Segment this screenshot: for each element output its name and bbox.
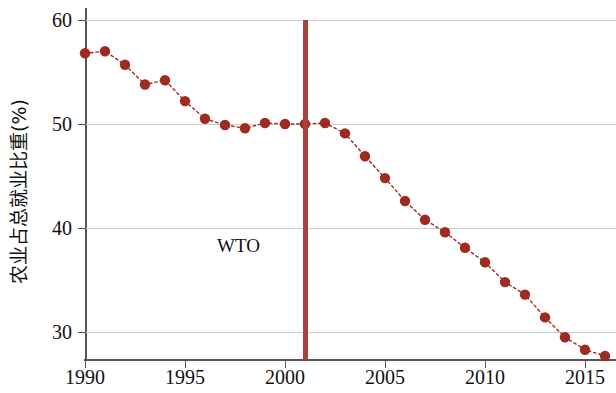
data-point (320, 118, 330, 128)
data-point (400, 196, 410, 206)
chart-figure: 农业占总就业比重(%) 30405060 1990199520002005201… (0, 0, 616, 393)
x-tick-label: 1995 (145, 367, 225, 387)
y-axis-title: 农业占总就业比重(%) (4, 57, 31, 327)
data-series-layer (0, 0, 616, 393)
gridline (85, 228, 616, 229)
series-line (85, 51, 605, 356)
y-tick-label: 40 (28, 218, 72, 238)
x-tick-label: 2010 (445, 367, 525, 387)
wto-annotation-label: WTO (217, 236, 260, 255)
data-point (580, 345, 590, 355)
y-tick-label: 50 (28, 114, 72, 134)
data-point (160, 75, 170, 85)
y-axis-line (85, 8, 87, 360)
data-point (340, 128, 350, 138)
wto-vertical-line (303, 20, 308, 360)
data-point (120, 59, 130, 69)
x-tick-label: 2005 (345, 367, 425, 387)
data-point (520, 289, 530, 299)
y-tick-mark (78, 332, 86, 333)
series-markers (80, 46, 610, 361)
data-point (500, 277, 510, 287)
data-point (360, 151, 370, 161)
x-tick-label: 1990 (45, 367, 125, 387)
x-tick-label: 2000 (245, 367, 325, 387)
data-point (420, 215, 430, 225)
y-tick-mark (78, 124, 86, 125)
data-point (260, 118, 270, 128)
gridline (85, 332, 616, 333)
data-point (140, 79, 150, 89)
gridline (85, 124, 616, 125)
y-tick-label: 60 (28, 10, 72, 30)
data-point (540, 312, 550, 322)
x-axis-line (84, 359, 616, 361)
data-point (100, 46, 110, 56)
data-point (220, 120, 230, 130)
y-tick-label: 30 (28, 322, 72, 342)
data-point (560, 332, 570, 342)
data-point (200, 114, 210, 124)
data-point (480, 257, 490, 267)
x-tick-label: 2015 (545, 367, 616, 387)
data-point (460, 243, 470, 253)
y-tick-mark (78, 20, 86, 21)
y-tick-mark (78, 228, 86, 229)
data-point (180, 96, 190, 106)
gridline (85, 20, 616, 21)
data-point (380, 173, 390, 183)
